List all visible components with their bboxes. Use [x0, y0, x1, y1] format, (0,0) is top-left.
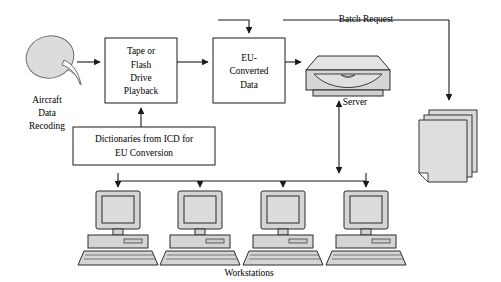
monitor-stand-icon [113, 229, 123, 235]
monitor-screen-icon [184, 196, 216, 223]
report-stack-node[interactable] [419, 110, 477, 182]
converted-label-line-3: Data [240, 80, 259, 90]
dictionaries-label-line-2: EU Conversion [115, 148, 173, 158]
dictionaries-from-icd-node[interactable]: Dictionaries from ICD for EU Conversion [73, 127, 215, 165]
edge-batch-request-into-converted [218, 20, 249, 33]
workstation-2[interactable] [160, 191, 240, 265]
keyboard-icon [78, 251, 158, 265]
workstations-caption: Workstations [224, 268, 274, 278]
flow-diagram-canvas: Aircraft Data Recoding Tape or Flash Dri… [0, 0, 501, 282]
server-caption: Server [343, 97, 368, 107]
dish-icon [22, 31, 79, 83]
workstation-3[interactable] [243, 191, 323, 265]
playback-label-line-1: Tape or [127, 46, 156, 56]
eu-converted-data-node[interactable]: EU- Converted Data [213, 38, 285, 103]
server-top-icon [306, 56, 390, 70]
converted-label-line-1: EU- [241, 53, 257, 63]
playback-label-line-3: Drive [130, 73, 151, 83]
monitor-screen-icon [102, 196, 134, 223]
server-node[interactable]: Server [306, 56, 390, 107]
aircraft-data-recording-node: Aircraft Data Recoding [22, 31, 81, 131]
monitor-stand-icon [361, 229, 371, 235]
workstation-1[interactable] [78, 191, 158, 265]
converted-label-line-2: Converted [229, 66, 268, 76]
monitor-screen-icon [267, 196, 299, 223]
dictionaries-box[interactable] [73, 127, 215, 165]
playback-label-line-4: Playback [124, 86, 159, 96]
drive-slot-icon [206, 239, 224, 243]
dictionaries-label-line-1: Dictionaries from ICD for [95, 134, 194, 144]
keyboard-icon [160, 251, 240, 265]
batch-request-label: Batch Request [339, 14, 394, 24]
monitor-screen-icon [350, 196, 382, 223]
source-caption-line-3: Recoding [29, 121, 65, 131]
monitor-stand-icon [278, 229, 288, 235]
playback-label-line-2: Flash [131, 60, 152, 70]
document-fold-corner-icon [419, 173, 428, 182]
drive-slot-icon [289, 239, 307, 243]
source-caption-line-2: Data [38, 108, 57, 118]
workstation-4[interactable] [326, 191, 406, 265]
tape-or-flash-drive-playback-node[interactable]: Tape or Flash Drive Playback [105, 38, 177, 103]
keyboard-icon [243, 251, 323, 265]
drive-slot-icon [372, 239, 390, 243]
drive-slot-icon [124, 239, 142, 243]
monitor-stand-icon [195, 229, 205, 235]
diagram-svg: Aircraft Data Recoding Tape or Flash Dri… [0, 0, 501, 282]
source-caption-line-1: Aircraft [32, 95, 62, 105]
keyboard-icon [326, 251, 406, 265]
server-base-icon [313, 90, 383, 96]
